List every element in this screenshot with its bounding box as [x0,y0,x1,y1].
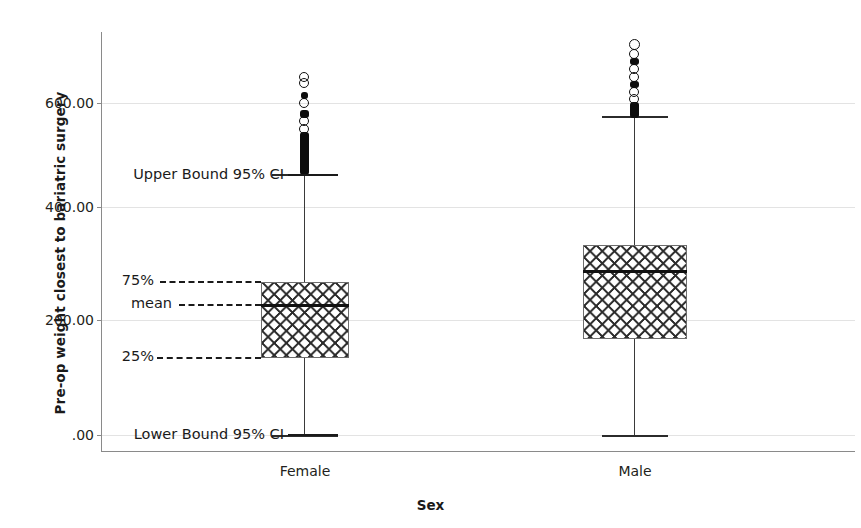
outlier-point [629,39,640,50]
outlier-point [629,87,639,97]
leader-line-q3 [160,281,261,283]
annotation-upper-ci: Upper Bound 95% CI [108,166,284,182]
whisker-lower-male [634,338,635,436]
whisker-lower-female [304,357,305,436]
median-line-female [261,304,349,307]
boxplot-chart: Pre-op weight closest to bariatric surge… [0,0,861,528]
outlier-point [300,110,309,118]
leader-line-mean [179,304,261,306]
tick-mark-0 [97,435,102,436]
plot-area [102,32,855,452]
leader-line-q1 [157,357,261,359]
outlier-point [630,58,639,65]
outlier-point [629,49,639,59]
outlier-point [629,64,639,74]
x-tick-male: Male [535,463,735,479]
box-rect-female [261,282,349,358]
leader-line-upper-ci [288,174,338,176]
outlier-cluster-female [300,132,309,175]
x-axis-title: Sex [0,497,861,513]
box-rect-male [583,245,687,339]
tick-mark-400 [97,207,102,208]
outlier-point [630,81,639,88]
annotation-q1: 25% [110,348,154,364]
gridline-600 [102,103,855,104]
outlier-cluster-male [630,102,639,118]
tick-mark-200 [97,320,102,321]
annotation-mean: mean [100,295,172,311]
median-line-male [583,270,687,273]
outlier-point [301,92,308,99]
annotation-q3: 75% [110,272,154,288]
annotation-lower-ci: Lower Bound 95% CI [108,426,284,442]
whisker-upper-female [304,175,305,283]
outlier-point [299,72,309,82]
outlier-point [299,98,309,108]
tick-mark-600 [97,103,102,104]
gridline-400 [102,207,855,208]
whisker-upper-male [634,117,635,246]
whisker-cap-lower-male [602,435,668,437]
leader-line-lower-ci [288,434,338,436]
gridline-200 [102,320,855,321]
x-tick-female: Female [205,463,405,479]
